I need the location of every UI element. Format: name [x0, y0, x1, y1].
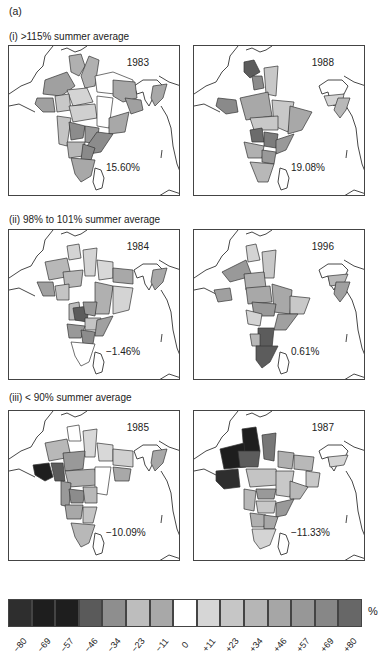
- colorbar-swatch: [173, 599, 197, 627]
- colorbar-unit: %: [368, 605, 378, 617]
- anomaly-label: −10.09%: [106, 527, 146, 538]
- colorbar-tick-label: +69: [315, 633, 338, 658]
- colorbar-tick-label: −69: [32, 633, 55, 658]
- colorbar-tick-label: 0: [174, 633, 197, 658]
- colorbar-swatch: [79, 599, 103, 627]
- india-map-1996: [194, 230, 365, 380]
- colorbar-swatch: [126, 599, 150, 627]
- colorbar-tick-label: −11: [150, 633, 173, 658]
- map-1996: 1996 0.61%: [193, 229, 365, 380]
- map-1984: 1984 −1.46%: [8, 229, 180, 380]
- map-1987: 1987 −11.33%: [193, 410, 365, 561]
- year-label: 1985: [127, 422, 149, 433]
- colorbar-swatch: [268, 599, 292, 627]
- colorbar-tick-label: −23: [126, 633, 149, 658]
- section-title-below-normal: (iii) < 90% summer average: [9, 392, 132, 403]
- colorbar-swatch: [244, 599, 268, 627]
- colorbar-swatch: [315, 599, 339, 627]
- india-map-1988: [194, 46, 365, 196]
- anomaly-label: −1.46%: [106, 346, 140, 357]
- colorbar-tick-label: −57: [56, 633, 79, 658]
- colorbar-swatch: [55, 599, 79, 627]
- colorbar-swatch: [291, 599, 315, 627]
- colorbar-tick-label: −34: [103, 633, 126, 658]
- section-title-near-normal: (ii) 98% to 101% summer average: [9, 214, 160, 225]
- colorbar: [8, 599, 362, 627]
- year-label: 1983: [127, 57, 149, 68]
- colorbar-swatch: [102, 599, 126, 627]
- map-1983: 1983 15.60%: [8, 45, 180, 196]
- colorbar-swatch: [220, 599, 244, 627]
- colorbar-swatch: [150, 599, 174, 627]
- year-label: 1987: [312, 422, 334, 433]
- colorbar-tick-label: −80: [8, 633, 31, 658]
- india-map-1983: [9, 46, 180, 196]
- year-label: 1988: [312, 57, 334, 68]
- anomaly-label: −11.33%: [291, 527, 330, 538]
- india-map-1987: [194, 411, 365, 561]
- map-1988: 1988 19.08%: [193, 45, 365, 196]
- colorbar-tick-label: +34: [244, 633, 267, 658]
- anomaly-label: 15.60%: [106, 162, 140, 173]
- map-1985: 1985 −10.09%: [8, 410, 180, 561]
- year-label: 1996: [312, 241, 334, 252]
- colorbar-tick-label: +80: [339, 633, 362, 658]
- anomaly-label: 0.61%: [291, 346, 319, 357]
- section-title-above-normal: (i) >115% summer average: [9, 31, 129, 42]
- colorbar-tick-label: +11: [197, 633, 220, 658]
- colorbar-tick-label: +23: [221, 633, 244, 658]
- colorbar-swatch: [8, 599, 32, 627]
- colorbar-swatch: [338, 599, 362, 627]
- colorbar-swatch: [197, 599, 221, 627]
- colorbar-tick-label: +46: [268, 633, 291, 658]
- colorbar-tick-label: +57: [292, 633, 315, 658]
- colorbar-swatch: [32, 599, 56, 627]
- panel-label: (a): [9, 5, 22, 17]
- india-map-1985: [9, 411, 180, 561]
- india-map-1984: [9, 230, 180, 380]
- colorbar-tick-label: −46: [79, 633, 102, 658]
- year-label: 1984: [127, 241, 149, 252]
- anomaly-label: 19.08%: [291, 162, 325, 173]
